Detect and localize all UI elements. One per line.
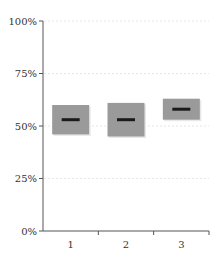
boxes: [52, 99, 201, 138]
y-tick-label: 0%: [21, 226, 37, 237]
y-tick-label: 25%: [15, 173, 37, 184]
x-tick-label: 2: [123, 239, 129, 250]
y-tick-label: 75%: [15, 68, 37, 79]
x-tick-label: 1: [67, 239, 73, 250]
box-plot-chart: 0%25%50%75%100%123: [0, 0, 219, 262]
y-tick-label: 100%: [8, 16, 37, 27]
y-tick-label: 50%: [15, 121, 37, 132]
x-tick-label: 3: [178, 239, 184, 250]
